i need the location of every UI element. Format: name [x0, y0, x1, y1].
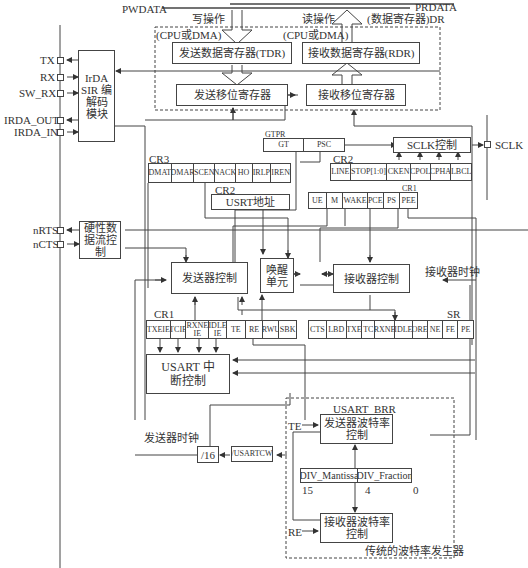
baud-generator-label: 传统的波特率发生器 [365, 545, 464, 557]
sr-field: FE [443, 321, 458, 338]
brr-register: DIV_Mantissa DIV_Fraction [300, 468, 412, 483]
cr3-field: HO [236, 164, 253, 182]
cr1-field: TE [227, 321, 246, 338]
cr2-field: CPOL [411, 164, 431, 180]
cpu-dma-left-label: (CPU或DMA) [156, 29, 221, 41]
cr1-field: RE [246, 321, 264, 338]
sr-field: TC [362, 321, 375, 338]
cr3-field: IREN [271, 164, 290, 182]
bit0-label: 0 [413, 484, 419, 496]
cr2-register: LINE STOP[1:0] CKEN CPOL CPHA LBCL [330, 163, 472, 181]
cr2-field: LBCL [451, 164, 471, 180]
te-label: TE [288, 420, 301, 432]
cr3-register: DMAT DMAR SCEN NACK HO IRLP IREN [148, 163, 291, 183]
cr1-bottom-register: TXEIE TCIE RXNE IE IDLE IE TE RE RWU SBK [146, 320, 297, 339]
irda-block: IrDA SIR 编解码 模块 [78, 50, 115, 142]
sr-field: CTS [309, 321, 327, 338]
pin-rx [57, 74, 64, 81]
sr-field: PE [458, 321, 473, 338]
cr1-field: PCE [368, 193, 384, 208]
gtpr-register: GT PSC [263, 138, 345, 152]
sr-field: NE [428, 321, 444, 338]
rx-control-block: 接收器控制 [333, 264, 410, 293]
cr1-field: IDLE IE [209, 321, 227, 338]
div16-block: /16 [197, 446, 219, 463]
cr3-field: DMAT [149, 164, 172, 182]
usartcw-block: /USARTCW [231, 446, 273, 462]
read-op-label: 读操作 [302, 13, 335, 25]
cr1-field: PEE [400, 193, 417, 208]
cr1-field: TXEIE [147, 321, 171, 338]
tx-clock-label: 发送器时钟 [144, 432, 199, 444]
pin-tx-label: TX [40, 54, 55, 66]
wakeup-unit-block: 唤醒 单元 [260, 258, 294, 293]
cr1-bottom-label: CR1 [154, 308, 174, 320]
usart-address-block: USRT地址 [211, 194, 290, 210]
pin-irda-in-label: IRDA_IN [14, 126, 58, 138]
dr-label: (数据寄存器)DR [367, 13, 445, 25]
gtpr-field: PSC [304, 139, 344, 151]
pin-irda-out-label: IRDA_OUT [4, 114, 59, 126]
cr2-field: LINE [331, 164, 351, 180]
pin-ncts [57, 241, 64, 248]
tx-shift-block: 发送移位寄存器 [176, 84, 288, 106]
cr3-field: DMAR [172, 164, 195, 182]
pwdata-label: PWDATA [122, 3, 167, 15]
hw-flow-control-block: 硬性数 据流控制 [79, 221, 121, 259]
cr3-field: SCEN [194, 164, 215, 182]
cr1-field: SBK [279, 321, 296, 338]
cr1-field: UE [309, 193, 327, 208]
cr1-field: TCIE [171, 321, 187, 338]
pin-ncts-label: nCTS [33, 238, 59, 250]
sclk-control-block: SCLK控制 [393, 137, 471, 153]
sr-field: IDLE [395, 321, 413, 338]
brr-field: DIV_Mantissa [301, 469, 358, 482]
sr-field: LBD [327, 321, 347, 338]
rx-clock-label: 接收器时钟 [425, 266, 480, 278]
cr1-field: RWU [263, 321, 279, 338]
sr-field: TXE [347, 321, 363, 338]
rdr-block: 接收数据寄存器(RDR) [302, 42, 420, 64]
pin-irda-out [57, 117, 64, 124]
cpu-dma-right-label: (CPU或DMA) [283, 29, 348, 41]
brr-field: DIV_Fraction [358, 469, 411, 482]
bit4-label: 4 [365, 484, 371, 496]
cr1-top-register: UE M WAKE PCE PS PEE [308, 192, 418, 209]
pin-sclk-label: SCLK [495, 139, 523, 151]
sr-register: CTS LBD TXE TC RXNE IDLE ORE NE FE PE [308, 320, 474, 339]
cr1-field: WAKE [343, 193, 368, 208]
prdata-label: PRDATA [415, 1, 457, 13]
tdr-block: 发送数据寄存器(TDR) [172, 42, 292, 64]
pin-irda-in [57, 129, 64, 136]
bit15-label: 15 [302, 484, 313, 496]
cr1-field: RXNE IE [186, 321, 209, 338]
pin-nrts [57, 227, 64, 234]
gtpr-field: GT [264, 139, 304, 151]
pin-rx-label: RX [40, 71, 55, 83]
interrupt-control-block: USART 中断控制 [146, 354, 230, 394]
cr2-field: CPHA [431, 164, 452, 180]
tx-baud-control-block: 发送器波特率 控制 [320, 414, 393, 444]
pin-tx [57, 57, 64, 64]
sr-field: ORE [413, 321, 428, 338]
sr-label: SR [447, 308, 460, 320]
cr1-field: PS [384, 193, 401, 208]
write-op-label: 写操作 [192, 13, 225, 25]
cr3-field: NACK [215, 164, 236, 182]
cr3-field: IRLP [253, 164, 272, 182]
sr-field: RXNE [375, 321, 395, 338]
rx-baud-control-block: 接收器波特率 控制 [320, 513, 393, 543]
tx-control-block: 发送器控制 [171, 262, 248, 294]
pin-sclk [484, 141, 491, 148]
cr1-field: M [327, 193, 344, 208]
pin-sw-rx-label: SW_RX [19, 87, 56, 99]
cr2-field: CKEN [387, 164, 411, 180]
pin-nrts-label: nRTS [33, 224, 58, 236]
rx-shift-block: 接收移位寄存器 [306, 84, 406, 106]
pin-sw-rx [57, 90, 64, 97]
irda-block-label: IrDA SIR 编解码 模块 [81, 72, 112, 120]
re-label: RE [288, 526, 302, 538]
cr2-field: STOP[1:0] [351, 164, 387, 180]
